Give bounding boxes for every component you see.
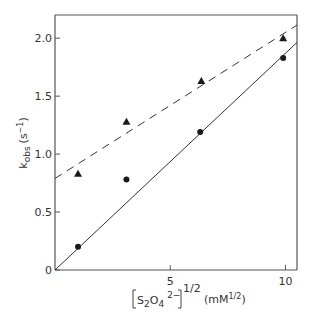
circle-marker: [280, 55, 286, 61]
x-axis-label: S2O42− 1/2 (mM1/2): [133, 282, 246, 309]
y-tick-label: 0: [45, 264, 52, 277]
y-tick-label: 0.5: [35, 206, 53, 219]
x-tick-label: 10: [278, 275, 292, 288]
plot-frame: [55, 15, 297, 270]
y-tick-label: 1.5: [35, 90, 53, 103]
y-tick-label: 1.0: [35, 148, 53, 161]
circle-marker: [197, 129, 203, 135]
circles-fit-line: [55, 42, 297, 270]
triangle-marker: [74, 170, 82, 177]
x-tick-label: 5: [167, 275, 174, 288]
data-points: [74, 34, 287, 250]
y-tick-label: 2.0: [35, 32, 53, 45]
circle-marker: [123, 177, 129, 183]
svg-text:(mM1/2): (mM1/2): [204, 292, 246, 306]
triangle-marker: [197, 77, 205, 84]
y-axis-label: kobs(s−1): [16, 117, 32, 168]
circle-marker: [75, 244, 81, 250]
svg-text:1/2: 1/2: [183, 282, 201, 295]
ticks: 00.51.01.52.0510: [35, 32, 293, 288]
fit-lines: [55, 25, 297, 270]
triangle-marker: [122, 118, 130, 125]
triangles-fit-line: [55, 25, 297, 178]
svg-text:kobs(s−1): kobs(s−1): [16, 117, 32, 168]
chart: 00.51.01.52.0510 kobs(s−1) S2O42− 1/2 (m…: [0, 0, 312, 320]
svg-text:S2O42−: S2O42−: [137, 290, 180, 309]
